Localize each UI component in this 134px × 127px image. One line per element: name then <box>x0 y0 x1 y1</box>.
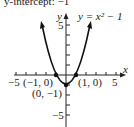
x-axis-label: x <box>123 64 128 75</box>
y-axis-arrow-icon <box>64 13 69 19</box>
x-tick-label-neg5: −5 <box>8 77 20 88</box>
curve-left-arrow-icon <box>40 21 45 29</box>
point-label-0-neg1: (0, −1) <box>32 88 62 99</box>
graph-figure: y-intercept: −1 y x y = x² − 1 5 −5 −5 5… <box>0 0 134 127</box>
equation-label: y = x² − 1 <box>78 11 122 22</box>
point-label-1-0: (1, 0) <box>78 77 102 88</box>
curve-right-arrow-icon <box>87 21 92 29</box>
y-tick-label-5: 5 <box>58 20 64 31</box>
y-ticks <box>66 25 70 115</box>
point-neg1-0 <box>54 73 58 77</box>
x-tick-label-5: 5 <box>112 77 118 88</box>
y-tick-label-neg5: −5 <box>52 110 64 121</box>
point-0-neg1 <box>64 83 68 87</box>
